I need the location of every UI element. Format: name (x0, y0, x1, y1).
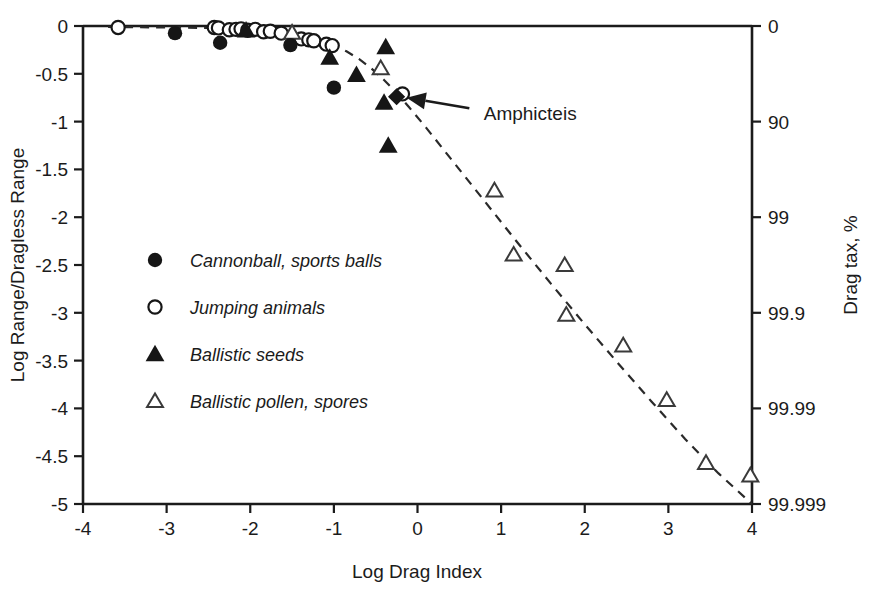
legend-marker-filled-circle (148, 253, 162, 267)
data-point-marker (168, 26, 182, 40)
data-point-marker (326, 39, 339, 52)
annotation-arrow-line (425, 101, 469, 108)
x-tick-label: 2 (579, 518, 590, 539)
annotation-label: Amphicteis (484, 103, 577, 124)
legend-label: Cannonball, sports balls (190, 251, 382, 271)
x-tick-label: -2 (242, 518, 259, 539)
y-right-tick-label: 0 (768, 16, 779, 37)
x-axis-ticks: -4-3-2-101234 (75, 504, 758, 539)
data-point-marker (376, 38, 395, 54)
x-tick-label: 3 (663, 518, 674, 539)
data-point-marker (213, 36, 227, 50)
y-left-tick-label: -1 (51, 112, 68, 133)
data-point-marker (283, 38, 297, 52)
y-axis-left-ticks: 0-0.5-1-1.5-2-2.5-3-3.5-4-4.5-5 (35, 16, 83, 515)
y-axis-title-left: Log Range/Dragless Range (7, 148, 28, 383)
data-point-marker (659, 392, 675, 406)
data-point-marker (615, 338, 631, 352)
legend-label: Jumping animals (189, 298, 325, 318)
chart-page: -4-3-2-101234 0-0.5-1-1.5-2-2.5-3-3.5-4-… (0, 0, 878, 600)
y-left-tick-label: -5 (51, 494, 68, 515)
x-tick-label: -1 (325, 518, 342, 539)
x-axis-title: Log Drag Index (352, 561, 482, 582)
y-axis-right-ticks: 0909999.999.9999.999 (752, 16, 826, 515)
y-left-tick-label: -2.5 (35, 255, 68, 276)
data-point-marker (698, 455, 714, 469)
y-left-tick-label: -3.5 (35, 351, 68, 372)
y-axis-title-right: Drag tax, % (840, 215, 861, 314)
x-tick-label: -4 (75, 518, 92, 539)
data-point-marker (742, 468, 758, 482)
y-left-tick-label: -4 (51, 398, 68, 419)
scatter-plot: -4-3-2-101234 0-0.5-1-1.5-2-2.5-3-3.5-4-… (0, 0, 878, 600)
x-tick-label: 1 (496, 518, 507, 539)
legend-marker-open-circle (148, 300, 161, 313)
legend-label: Ballistic seeds (190, 345, 304, 365)
y-right-tick-label: 99 (768, 207, 789, 228)
legend-group: Cannonball, sports ballsJumping animalsB… (146, 251, 383, 412)
y-right-tick-label: 90 (768, 112, 789, 133)
legend-marker-open-triangle (147, 393, 163, 407)
y-left-tick-label: -2 (51, 207, 68, 228)
y-right-tick-label: 99.9 (768, 303, 805, 324)
data-point-marker (373, 60, 389, 74)
data-point-marker (379, 136, 398, 152)
data-point-marker (307, 34, 320, 47)
y-left-tick-label: 0 (57, 16, 68, 37)
y-right-tick-label: 99.99 (768, 398, 816, 419)
data-point-marker (486, 183, 502, 197)
x-tick-label: 4 (747, 518, 758, 539)
data-point-marker (557, 257, 573, 271)
data-point-marker (347, 66, 366, 82)
y-left-tick-label: -1.5 (35, 159, 68, 180)
x-tick-label: -3 (158, 518, 175, 539)
legend-label: Ballistic pollen, spores (190, 392, 368, 412)
data-point-marker (327, 80, 341, 94)
annotation-group: Amphicteis (407, 92, 577, 123)
legend-marker-filled-triangle (146, 345, 165, 361)
data-point-marker (506, 247, 522, 261)
y-left-tick-label: -3 (51, 303, 68, 324)
y-right-tick-label: 99.999 (768, 494, 826, 515)
x-tick-label: 0 (412, 518, 423, 539)
y-left-tick-label: -0.5 (35, 64, 68, 85)
data-point-marker (112, 21, 125, 34)
data-point-marker (558, 307, 574, 321)
y-left-tick-label: -4.5 (35, 446, 68, 467)
